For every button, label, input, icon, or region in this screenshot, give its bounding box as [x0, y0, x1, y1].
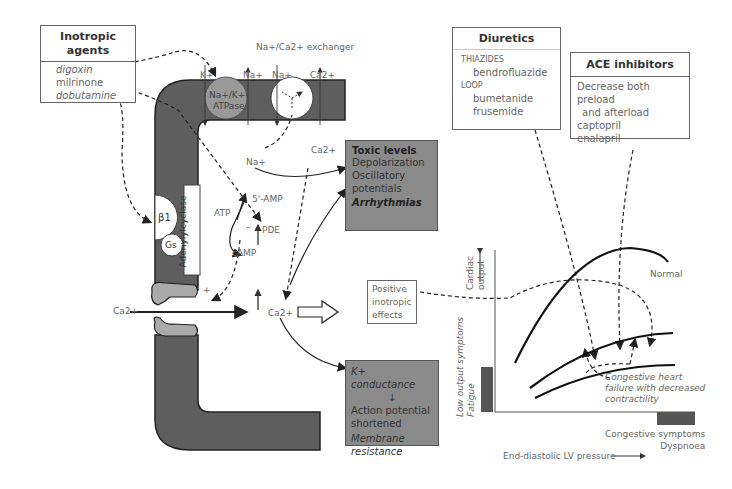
amp5-label: 5'-AMP [252, 194, 283, 205]
beta1-label: β1 [158, 212, 171, 223]
ca-up-label: Ca2+ [311, 145, 336, 156]
ion-na-2: Na+ [272, 70, 292, 81]
na-up-label: Na+ [246, 157, 266, 168]
ca-center-label: Ca2+ [268, 308, 293, 319]
camp-label: cAMP [232, 248, 256, 259]
plus-sign: + [203, 285, 211, 296]
exchanger-label: Na+/Ca2+ exchanger [256, 42, 354, 53]
drug-dobutamine: dobutamine [56, 89, 135, 102]
adenylylcyclase-label: Adenylylcyclase [178, 195, 189, 267]
ca-in-label: Ca2+ [113, 306, 138, 317]
normal-curve [515, 248, 668, 363]
dyspnoea-bar [657, 412, 695, 425]
toxic-levels-box: Toxic levels Depolarization Oscillatory … [345, 140, 438, 231]
pde-label: PDE [262, 225, 280, 236]
drug-digoxin: digoxin [56, 63, 135, 76]
positive-inotropic-box: Positive inotropic effects [367, 280, 417, 324]
atp-label: ATP [214, 208, 230, 219]
ion-k: K+ [200, 70, 213, 81]
normal-label: Normal [650, 269, 683, 280]
ion-ca: Ca2+ [310, 70, 335, 81]
pump-label: Na+/K+- ATPase [209, 90, 249, 112]
inotropic-title: Inotropic agents [41, 26, 135, 62]
gs-label: Gs [165, 240, 177, 251]
ace-inhibitors-box: ACE inhibitors Decrease both preload and… [570, 52, 690, 139]
congestive-label: Congestive symptoms Dyspnoea [605, 428, 705, 452]
x-axis-label: End-diastolic LV pressure [503, 451, 616, 462]
fatigue-bar [481, 367, 493, 412]
ion-na-1: Na+ [243, 70, 263, 81]
hollow-arrow [298, 301, 338, 323]
minus-sign: – [246, 222, 251, 233]
cell-membrane-bottom [155, 335, 320, 450]
drug-milrinone: milrinone [56, 76, 135, 89]
k-conductance-box: K+ conductance ↓ Action potential shorte… [345, 360, 439, 446]
ca-channel-upper [152, 282, 198, 305]
ca-channel-lower [154, 317, 197, 336]
inotropic-agents-box: Inotropic agents digoxin milrinone dobut… [40, 25, 136, 103]
chf-label: Congestive heart failure with decreased … [605, 372, 705, 405]
low-output-label: Low output symptoms Fatigue [455, 317, 477, 417]
y-axis-label: Cardiac output [465, 256, 487, 290]
diuretics-box: Diuretics THIAZIDES bendrofluazide LOOP … [452, 27, 561, 130]
